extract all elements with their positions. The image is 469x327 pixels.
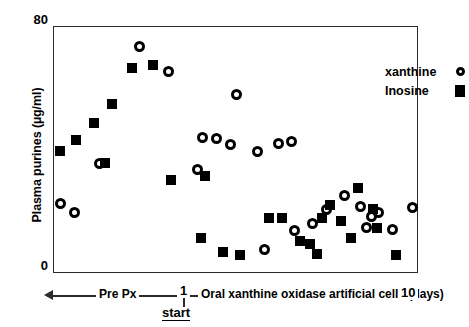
- data-point-inosine: [346, 233, 356, 243]
- x-axis-label-day-10: 10: [398, 285, 418, 300]
- y-axis-title: Plasma purines (µg/ml): [30, 55, 44, 255]
- filled-square-icon: [451, 85, 469, 97]
- data-point-inosine: [353, 183, 363, 193]
- x-axis-annotations: Pre Px 1 Oral xanthine oxidase artificia…: [0, 276, 442, 327]
- data-point-inosine: [218, 247, 228, 257]
- data-point-xanthine: [355, 201, 366, 212]
- x-axis-label-pre-px: Pre Px: [96, 287, 139, 301]
- data-point-xanthine: [289, 225, 300, 236]
- data-point-xanthine: [211, 133, 222, 144]
- data-point-inosine: [89, 118, 99, 128]
- data-point-inosine: [166, 175, 176, 185]
- data-point-xanthine: [252, 146, 263, 157]
- data-point-xanthine: [69, 207, 80, 218]
- data-point-inosine: [264, 213, 274, 223]
- y-axis-tick-label-0: 0: [14, 258, 48, 273]
- data-point-xanthine: [387, 224, 398, 235]
- open-circle-icon: [451, 67, 469, 76]
- legend: xanthine Inosine: [385, 63, 469, 101]
- data-point-inosine: [317, 213, 327, 223]
- data-point-xanthine: [225, 139, 236, 150]
- data-point-inosine: [372, 223, 382, 233]
- data-point-xanthine: [407, 202, 418, 213]
- legend-entry-xanthine: xanthine: [385, 63, 469, 80]
- x-axis-label-start: start: [162, 305, 190, 321]
- data-point-xanthine: [339, 190, 350, 201]
- data-point-xanthine: [197, 132, 208, 143]
- data-point-inosine: [196, 233, 206, 243]
- data-point-inosine: [200, 171, 210, 181]
- data-point-xanthine: [55, 198, 66, 209]
- plot-area: xanthine Inosine: [53, 26, 418, 273]
- data-point-inosine: [325, 200, 335, 210]
- data-point-xanthine: [134, 41, 145, 52]
- data-point-xanthine: [231, 89, 242, 100]
- arrow-left-icon: [44, 290, 53, 300]
- data-point-inosine: [368, 204, 378, 214]
- data-point-inosine: [391, 250, 401, 260]
- data-point-xanthine: [273, 138, 284, 149]
- data-point-inosine: [100, 158, 110, 168]
- data-point-xanthine: [361, 222, 372, 233]
- data-point-inosine: [235, 250, 245, 260]
- data-point-inosine: [312, 249, 322, 259]
- data-point-xanthine: [286, 136, 297, 147]
- legend-entry-inosine: Inosine: [385, 82, 469, 99]
- data-point-inosine: [71, 135, 81, 145]
- data-point-inosine: [295, 236, 305, 246]
- data-point-inosine: [107, 99, 117, 109]
- legend-label-xanthine: xanthine: [385, 65, 451, 79]
- data-point-inosine: [277, 213, 287, 223]
- legend-label-inosine: Inosine: [385, 84, 451, 98]
- data-point-inosine: [148, 60, 158, 70]
- y-axis-tick-label-80: 80: [14, 12, 48, 27]
- data-point-xanthine: [163, 66, 174, 77]
- data-point-inosine: [336, 216, 346, 226]
- data-point-inosine: [127, 63, 137, 73]
- x-axis-label-day-1: 1: [177, 283, 190, 298]
- data-point-inosine: [55, 146, 65, 156]
- data-point-xanthine: [259, 244, 270, 255]
